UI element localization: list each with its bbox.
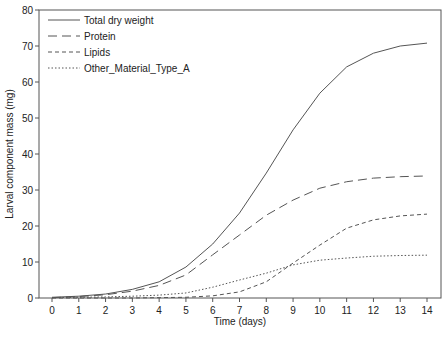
x-tick-label: 9	[290, 305, 296, 316]
series-line-0	[52, 43, 427, 297]
y-tick-label: 30	[22, 185, 34, 196]
y-tick-label: 80	[22, 5, 34, 16]
x-axis-title: Time (days)	[214, 316, 266, 327]
x-tick-label: 0	[49, 305, 55, 316]
series-line-3	[52, 255, 427, 297]
x-tick-label: 8	[264, 305, 270, 316]
legend-label: Other_Material_Type_A	[84, 63, 190, 74]
x-tick-label: 11	[341, 305, 352, 316]
x-tick-label: 2	[103, 305, 109, 316]
x-tick-label: 12	[368, 305, 380, 316]
series-line-1	[52, 176, 427, 298]
legend-label: Lipids	[84, 47, 110, 58]
x-tick-label: 13	[395, 305, 407, 316]
x-tick-label: 6	[210, 305, 216, 316]
x-tick-label: 14	[421, 305, 433, 316]
y-tick-label: 10	[22, 257, 34, 268]
y-tick-label: 0	[27, 293, 33, 304]
y-axis-title: Larval component mass (mg)	[4, 89, 15, 219]
x-tick-label: 3	[130, 305, 136, 316]
x-tick-label: 10	[314, 305, 326, 316]
y-tick-label: 40	[22, 149, 34, 160]
y-tick-label: 60	[22, 77, 34, 88]
legend: Total dry weightProteinLipidsOther_Mater…	[48, 15, 190, 74]
y-tick-label: 20	[22, 221, 34, 232]
y-axis: 01020304050607080	[22, 5, 39, 304]
series-layer	[52, 43, 427, 298]
y-tick-label: 50	[22, 113, 34, 124]
y-tick-label: 70	[22, 41, 34, 52]
legend-label: Protein	[84, 31, 116, 42]
legend-label: Total dry weight	[84, 15, 154, 26]
x-tick-label: 1	[76, 305, 82, 316]
x-axis: 01234567891011121314	[49, 298, 433, 316]
line-chart: 01020304050607080 01234567891011121314 T…	[0, 0, 448, 339]
x-tick-label: 7	[237, 305, 243, 316]
x-tick-label: 4	[156, 305, 162, 316]
x-tick-label: 5	[183, 305, 189, 316]
